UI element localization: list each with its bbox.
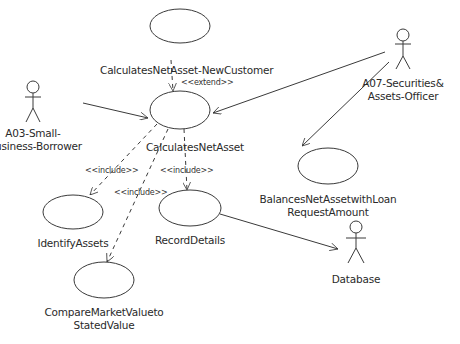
use-case-calc-label: CalculatesNetAsset bbox=[125, 141, 265, 154]
include-identify-stereotype-label: <<include>> bbox=[85, 166, 139, 175]
use-case-diagram-canvas bbox=[0, 0, 460, 344]
use-case-compare-label-line2: StatedValue bbox=[34, 319, 174, 332]
include-record-stereotype-label: <<include>> bbox=[160, 166, 214, 175]
actor-database-stick-figure-icon[interactable] bbox=[346, 221, 366, 263]
include-identify-line bbox=[90, 124, 157, 195]
include-record-line bbox=[184, 129, 187, 190]
use-case-calc-oval[interactable] bbox=[150, 91, 210, 129]
a03-to-calc-association bbox=[83, 103, 148, 118]
use-case-record-label: RecordDetails bbox=[140, 234, 240, 247]
actor-a07-label-line1: A07-Securities& bbox=[358, 77, 448, 90]
a07-to-balances-association bbox=[302, 62, 389, 146]
use-case-compare-label-line1: CompareMarketValueto bbox=[34, 306, 174, 319]
actor-a03-label-line2: Business-Borrower bbox=[0, 140, 78, 153]
actor-a07-label-line2: Assets-Officer bbox=[358, 90, 448, 103]
use-case-identify-oval[interactable] bbox=[43, 195, 103, 229]
use-case-record-oval[interactable] bbox=[159, 190, 221, 226]
actor-database-label: Database bbox=[321, 273, 391, 286]
use-case-balances-oval[interactable] bbox=[298, 148, 358, 184]
use-case-identify-label: IdentifyAssets bbox=[23, 237, 123, 250]
actor-a03-label-line1: A03-Small- bbox=[0, 127, 73, 140]
actor-a03-stick-figure-icon[interactable] bbox=[25, 81, 41, 122]
use-case-compare-oval[interactable] bbox=[74, 262, 134, 298]
use-case-newcustomer-oval[interactable] bbox=[150, 9, 210, 43]
use-case-balances-label-line2: RequestAmount bbox=[248, 206, 408, 219]
include-compare-stereotype-label: <<include>> bbox=[114, 188, 168, 197]
use-case-balances-label-line1: BalancesNetAssetwithLoan bbox=[248, 193, 408, 206]
extend-stereotype-label: <<extend>> bbox=[181, 78, 234, 87]
actor-a07-stick-figure-icon[interactable] bbox=[395, 29, 411, 69]
use-case-newcustomer-label: CalculatesNetAsset-NewCustomer bbox=[100, 64, 270, 77]
